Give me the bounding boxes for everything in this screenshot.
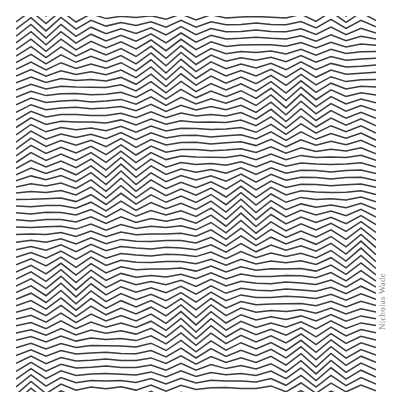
artist-credit: Nicholas Wade xyxy=(377,273,387,330)
zigzag-lines-graphic xyxy=(16,16,376,392)
op-art-pattern xyxy=(16,16,376,392)
